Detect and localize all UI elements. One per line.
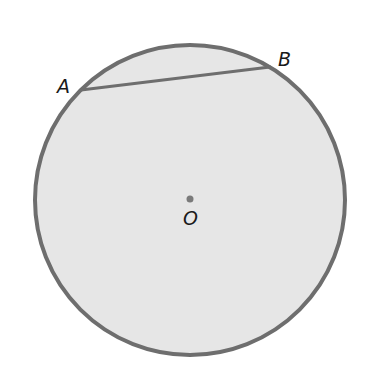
- center-point-o: [187, 196, 194, 203]
- label-o: O: [183, 207, 198, 229]
- circle-diagram: A B O: [0, 0, 366, 387]
- label-b: B: [278, 48, 291, 70]
- label-a: A: [55, 75, 70, 97]
